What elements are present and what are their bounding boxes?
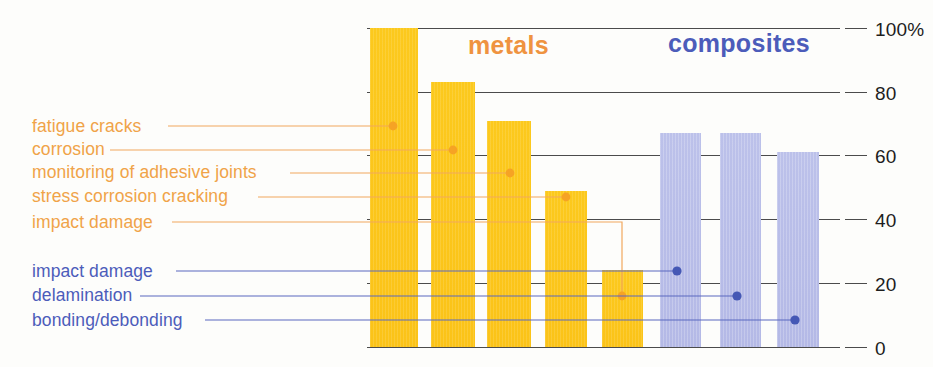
y-tick-label-60: 60 — [875, 147, 897, 166]
tick-stub-60 — [845, 155, 867, 156]
chart-figure: 100% 80 60 40 20 0 metals composites fat… — [0, 0, 933, 367]
y-tick-label-100: 100% — [875, 20, 924, 39]
gridline-0 — [367, 347, 840, 348]
y-tick-label-80: 80 — [875, 84, 897, 103]
callout-label-stress-corrosion: stress corrosion cracking — [32, 187, 228, 205]
tick-stub-40 — [845, 219, 867, 220]
tick-stub-20 — [845, 283, 867, 284]
callout-label-composites-impact-damage: impact damage — [32, 262, 153, 280]
bar-metals-impact-damage — [602, 270, 643, 347]
tick-stub-80 — [845, 92, 867, 93]
plot-area: 100% 80 60 40 20 0 — [367, 28, 840, 347]
y-tick-label-0: 0 — [875, 339, 886, 358]
callout-label-corrosion: corrosion — [32, 140, 105, 158]
callout-label-delamination: delamination — [32, 286, 132, 304]
bar-composites-impact-damage — [660, 133, 701, 347]
callout-label-adhesive-joints: monitoring of adhesive joints — [32, 163, 257, 181]
tick-stub-100 — [845, 28, 867, 29]
group-heading-composites: composites — [668, 29, 810, 58]
group-heading-metals: metals — [468, 31, 549, 60]
bar-composites-bonding-debonding — [777, 152, 819, 347]
callout-label-bonding-debonding: bonding/debonding — [32, 311, 183, 329]
tick-stub-0 — [845, 347, 867, 348]
bar-metals-fatigue-cracks — [370, 28, 418, 347]
bar-metals-corrosion — [431, 82, 475, 347]
y-tick-label-40: 40 — [875, 211, 897, 230]
callout-label-fatigue-cracks: fatigue cracks — [32, 117, 141, 135]
y-tick-label-20: 20 — [875, 275, 897, 294]
bar-composites-delamination — [720, 133, 761, 347]
bar-metals-adhesive-joints — [487, 121, 531, 347]
bar-metals-stress-corrosion — [545, 191, 587, 347]
callout-label-metals-impact-damage: impact damage — [32, 213, 153, 231]
